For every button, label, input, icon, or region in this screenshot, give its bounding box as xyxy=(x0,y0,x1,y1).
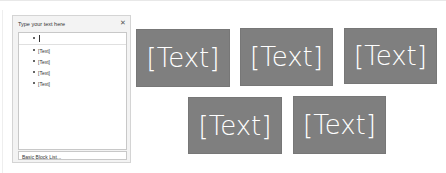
bullet-icon xyxy=(33,37,35,39)
left-divider xyxy=(2,10,3,173)
text-pane: Type your text here ✕ [Text] [Text] [Tex… xyxy=(12,15,131,163)
list-item[interactable]: [Text] xyxy=(19,67,126,78)
top-divider xyxy=(0,0,446,1)
list-item-active[interactable] xyxy=(19,33,126,45)
text-pane-title: Type your text here xyxy=(18,21,65,27)
list-item[interactable]: [Text] xyxy=(19,78,126,89)
bullet-icon xyxy=(33,82,35,84)
list-item[interactable]: [Text] xyxy=(19,45,126,56)
bullet-icon xyxy=(33,60,35,62)
bullet-icon xyxy=(33,49,35,51)
text-cursor xyxy=(39,35,40,42)
smartart-shape-1[interactable]: [Text] xyxy=(136,29,230,87)
bullet-text-area[interactable]: [Text] [Text] [Text] [Text] xyxy=(18,32,127,150)
close-icon[interactable]: ✕ xyxy=(120,19,126,27)
list-item-text: [Text] xyxy=(38,81,50,87)
smartart-shape-4[interactable]: [Text] xyxy=(188,97,282,154)
list-item[interactable]: [Text] xyxy=(19,56,126,67)
list-item-text: [Text] xyxy=(38,59,50,65)
smartart-shape-3[interactable]: [Text] xyxy=(344,28,437,84)
list-item-text: [Text] xyxy=(38,48,50,54)
list-item-text: [Text] xyxy=(38,70,50,76)
smartart-shape-2[interactable]: [Text] xyxy=(240,28,333,86)
smartart-shape-5[interactable]: [Text] xyxy=(293,96,386,154)
layout-name-link[interactable]: Basic Block List... xyxy=(18,151,127,160)
bullet-icon xyxy=(33,71,35,73)
